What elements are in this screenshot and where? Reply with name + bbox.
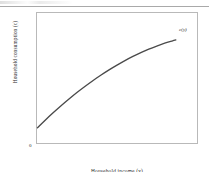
y-axis-label: Household consumption (c) (10, 0, 22, 112)
y-axis-label-text: Household consumption (c) (13, 21, 18, 84)
x-axis-label: Household income (y) (36, 159, 198, 172)
origin-label: 0 (29, 143, 32, 148)
x-axis-label-text: Household income (y) (91, 168, 143, 172)
page-divider-rule (0, 6, 209, 7)
consumption-function-curve (38, 40, 176, 128)
plot-area (36, 12, 198, 144)
figure-container: Household consumption (c) Household inco… (0, 0, 209, 172)
curve-annotation-label: c(y) (179, 27, 187, 32)
